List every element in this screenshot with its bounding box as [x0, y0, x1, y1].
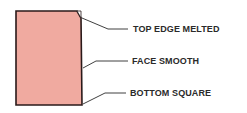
leader-line-bottom: [83, 93, 126, 104]
leader-line-face: [83, 61, 128, 68]
label-top-edge-melted: TOP EDGE MELTED: [133, 24, 220, 34]
block-shape: [16, 11, 82, 105]
label-bottom-square: BOTTOM SQUARE: [130, 88, 211, 98]
leader-line-top: [82, 18, 128, 29]
label-face-smooth: FACE SMOOTH: [132, 56, 199, 66]
